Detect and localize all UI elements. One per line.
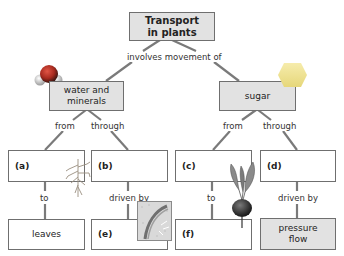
title-box: Transport in plants [129,12,215,41]
water-label-line-2: minerals [64,96,109,107]
water-label-line-1: water and [64,85,109,96]
c-to-label: to [207,193,216,203]
pressure-flow-line-2: flow [279,234,318,245]
root-link-label: involves movement of [127,52,222,62]
box-b-label: (b) [98,161,113,172]
leaves-label: leaves [32,229,61,240]
box-f-label: (f) [182,229,194,240]
a-to-label: to [40,193,49,203]
box-a-label: (a) [15,161,29,172]
title-line-1: Transport [145,15,199,27]
sugar-from-label: from [223,121,243,131]
pressure-flow-box: pressure flow [260,218,336,250]
d-driven-by-label: driven by [278,193,318,203]
beetroot-illustration [227,160,259,230]
box-b: (b) [91,150,168,182]
box-d-label: (d) [267,161,282,172]
sugar-label: sugar [245,91,270,102]
sugar-through-label: through [263,121,296,131]
pressure-flow-line-1: pressure [279,223,318,234]
box-c-label: (c) [182,161,196,172]
leaf-cross-section-illustration [137,201,172,241]
sugar-hexagon-icon [277,62,308,88]
root-illustration [65,157,91,199]
leaves-box: leaves [8,219,85,250]
title-line-2: in plants [145,27,199,39]
box-e-label: (e) [98,229,112,240]
water-minerals-box: water and minerals [49,81,124,111]
water-from-label: from [55,121,75,131]
water-through-label: through [91,121,124,131]
box-d: (d) [260,150,336,182]
